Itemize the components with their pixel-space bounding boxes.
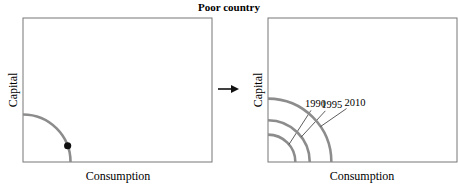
leader-line xyxy=(321,109,347,127)
figure-title: Poor country xyxy=(198,1,260,13)
frontier-curve xyxy=(268,135,295,162)
frontier-curve xyxy=(23,114,71,162)
figure: Poor country Consumption Capital 1990199… xyxy=(0,0,458,186)
arrow-right-icon xyxy=(218,85,239,93)
year-label: 2010 xyxy=(345,97,366,108)
leader-line xyxy=(301,111,325,137)
right-panel: 199019952010 Consumption Capital xyxy=(251,18,457,183)
left-panel: Consumption Capital xyxy=(6,18,212,183)
right-ylabel: Capital xyxy=(251,72,265,107)
frontier-curve xyxy=(268,120,310,162)
right-plot-frame xyxy=(268,18,457,162)
year-label: 1995 xyxy=(321,99,342,110)
left-xlabel: Consumption xyxy=(86,169,151,183)
left-plot-frame xyxy=(23,18,212,162)
left-ylabel: Capital xyxy=(6,72,20,107)
current-position-point xyxy=(64,142,71,149)
right-xlabel: Consumption xyxy=(330,169,395,183)
